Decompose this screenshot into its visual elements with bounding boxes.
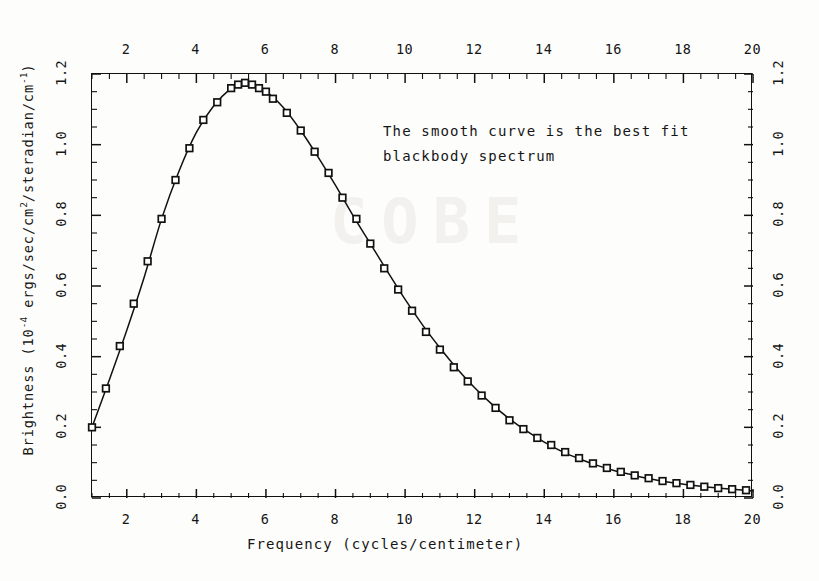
top-tick-label: 8	[330, 43, 339, 57]
left-tick-label: 0.6	[55, 272, 69, 298]
data-point-marker	[506, 417, 513, 424]
annotation-line-2: blackbody spectrum	[383, 144, 690, 169]
data-point-marker	[325, 170, 332, 177]
data-point-marker	[103, 385, 110, 392]
figure-canvas: COBE 2468101214161820 2468101214161820 0…	[0, 0, 819, 581]
bottom-tick-label: 16	[605, 513, 622, 527]
y-axis-title-text: Brightness (10-4 ergs/sec/cm2/steradian/…	[20, 63, 36, 455]
data-point-marker	[548, 442, 555, 449]
data-point-marker	[130, 300, 137, 307]
data-point-marker	[562, 449, 569, 456]
bottom-tick-label: 2	[122, 513, 131, 527]
data-point-marker	[144, 258, 151, 265]
right-tick-label: 1.2	[772, 60, 786, 86]
bottom-tick-label: 8	[330, 513, 339, 527]
data-point-marker	[590, 460, 597, 467]
data-point-marker	[743, 487, 750, 494]
left-tick-label: 0.0	[55, 484, 69, 510]
top-tick-label: 4	[191, 43, 200, 57]
data-point-marker	[284, 110, 291, 117]
data-point-marker	[297, 127, 304, 134]
data-point-marker	[673, 480, 680, 487]
data-point-marker	[228, 85, 235, 92]
data-point-marker	[263, 88, 270, 95]
bottom-tick-label: 18	[674, 513, 691, 527]
top-tick-label: 20	[744, 43, 761, 57]
right-tick-label: 0.6	[772, 272, 786, 298]
data-point-marker	[520, 426, 527, 433]
data-point-marker	[687, 482, 694, 489]
data-point-marker	[367, 240, 374, 247]
data-point-marker	[242, 80, 249, 87]
data-point-marker	[437, 346, 444, 353]
bottom-tick-label: 4	[191, 513, 200, 527]
data-point-marker	[576, 455, 583, 462]
bottom-tick-label: 6	[261, 513, 270, 527]
data-point-marker	[311, 148, 318, 155]
data-point-marker	[659, 478, 666, 485]
top-tick-label: 12	[465, 43, 482, 57]
data-point-marker	[492, 405, 499, 412]
data-point-marker	[729, 486, 736, 493]
data-point-marker	[534, 435, 541, 442]
data-point-marker	[186, 145, 193, 152]
right-tick-label: 0.8	[772, 201, 786, 227]
bottom-tick-label: 10	[396, 513, 413, 527]
data-point-marker	[409, 307, 416, 314]
bottom-tick-label: 20	[744, 513, 761, 527]
data-point-marker	[117, 343, 124, 350]
right-tick-label: 1.0	[772, 130, 786, 156]
left-tick-label: 0.2	[55, 413, 69, 439]
top-tick-label: 18	[674, 43, 691, 57]
data-point-marker	[395, 286, 402, 293]
left-tick-label: 0.4	[55, 342, 69, 368]
data-point-marker	[631, 472, 638, 479]
data-point-marker	[478, 392, 485, 399]
left-tick-label: 0.8	[55, 201, 69, 227]
data-point-marker	[256, 85, 263, 92]
data-point-marker	[604, 465, 611, 472]
data-point-marker	[701, 483, 708, 490]
top-tick-label: 2	[122, 43, 131, 57]
x-axis-title: Frequency (cycles/centimeter)	[247, 537, 523, 551]
data-point-marker	[715, 485, 722, 492]
right-tick-label: 0.0	[772, 484, 786, 510]
data-point-marker	[353, 216, 360, 223]
data-point-marker	[618, 469, 625, 476]
top-tick-label: 6	[261, 43, 270, 57]
data-point-marker	[200, 117, 207, 124]
data-point-marker	[270, 95, 277, 102]
data-point-marker	[214, 99, 221, 106]
top-tick-label: 14	[535, 43, 552, 57]
data-point-marker	[249, 81, 256, 88]
y-axis-title: Brightness (10-4 ergs/sec/cm2/steradian/…	[18, 45, 37, 475]
annotation-line-1: The smooth curve is the best fit	[383, 119, 690, 144]
data-point-marker	[158, 216, 165, 223]
data-point-marker	[451, 364, 458, 371]
right-tick-label: 0.2	[772, 413, 786, 439]
left-tick-label: 1.0	[55, 130, 69, 156]
bottom-tick-label: 12	[465, 513, 482, 527]
data-point-marker	[339, 194, 346, 201]
data-point-marker	[381, 265, 388, 272]
data-point-marker	[464, 378, 471, 385]
bottom-tick-label: 14	[535, 513, 552, 527]
top-tick-label: 16	[605, 43, 622, 57]
data-point-marker	[172, 177, 179, 184]
left-tick-label: 1.2	[55, 60, 69, 86]
data-point-marker	[89, 424, 96, 431]
data-point-marker	[645, 475, 652, 482]
right-tick-label: 0.4	[772, 342, 786, 368]
data-point-marker	[423, 329, 430, 336]
chart-annotation: The smooth curve is the best fitblackbod…	[383, 119, 690, 169]
data-point-marker	[235, 81, 242, 88]
top-tick-label: 10	[396, 43, 413, 57]
